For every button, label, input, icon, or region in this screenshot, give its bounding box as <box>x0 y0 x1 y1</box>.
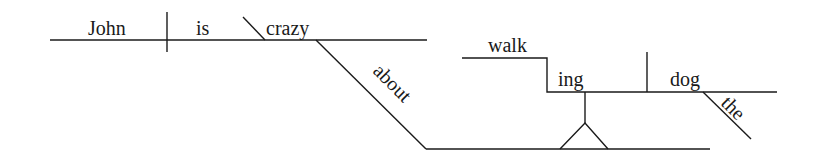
predicate-complement-divider <box>243 17 265 40</box>
word-verb: is <box>196 17 210 39</box>
sentence-diagram: John is crazy about walk ing dog the <box>0 0 817 159</box>
word-gerund-object: dog <box>670 68 700 91</box>
word-gerund-stem: walk <box>488 34 527 56</box>
word-gerund-suffix: ing <box>558 68 584 91</box>
word-predicate-adjective: crazy <box>266 17 309 40</box>
word-article: the <box>717 91 750 124</box>
gerund-step-line <box>462 58 777 92</box>
pedestal-triangle <box>560 123 608 149</box>
word-subject: John <box>88 17 126 39</box>
